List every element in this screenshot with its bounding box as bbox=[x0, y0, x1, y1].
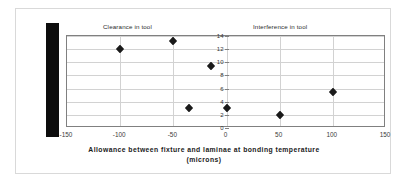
x-axis-title: Allowance between fixture and laminae at… bbox=[16, 145, 392, 165]
x-axis-tick-label: 150 bbox=[370, 131, 400, 138]
x-axis-tick-label: 100 bbox=[317, 131, 347, 138]
clearance-region-label: Clearance in tool bbox=[103, 23, 152, 30]
x-axis-tick-label: 0 bbox=[211, 131, 241, 138]
chart-figure: Clearance in tool Interference in tool 0… bbox=[15, 8, 391, 174]
y-axis-tick-mark bbox=[225, 128, 229, 129]
gridline-vertical bbox=[333, 36, 334, 126]
y-axis-tick-label: 4 bbox=[210, 99, 224, 105]
y-axis-tick-mark bbox=[225, 36, 229, 37]
plot-area: 02468101214 bbox=[66, 35, 385, 127]
y-axis-tick-label: 8 bbox=[210, 72, 224, 78]
x-axis-tick-label: -150 bbox=[51, 131, 81, 138]
y-axis-tick-label: 2 bbox=[210, 112, 224, 118]
x-axis-title-line1: Allowance between fixture and laminae at… bbox=[16, 145, 392, 155]
y-axis-tick-label: 12 bbox=[210, 46, 224, 52]
x-axis-tick-label: 50 bbox=[264, 131, 294, 138]
y-axis-tick-mark bbox=[225, 62, 229, 63]
gridline-vertical bbox=[173, 36, 174, 126]
y-axis-tick-label: 14 bbox=[210, 33, 224, 39]
black-bar-artifact bbox=[46, 23, 59, 137]
x-axis-tick-label: -100 bbox=[104, 131, 134, 138]
y-axis-tick-mark bbox=[225, 49, 229, 50]
data-point-marker bbox=[116, 45, 124, 53]
y-axis-tick-mark bbox=[225, 89, 229, 90]
x-axis-tick-label: -50 bbox=[157, 131, 187, 138]
y-axis-tick-mark bbox=[225, 115, 229, 116]
y-axis-tick-mark bbox=[225, 75, 229, 76]
y-axis-tick-label: 6 bbox=[210, 86, 224, 92]
data-point-marker bbox=[169, 37, 177, 45]
x-axis-title-line2: (microns) bbox=[16, 155, 392, 165]
interference-region-label: Interference in tool bbox=[253, 23, 307, 30]
data-point-marker bbox=[275, 111, 283, 119]
data-point-marker bbox=[185, 104, 193, 112]
